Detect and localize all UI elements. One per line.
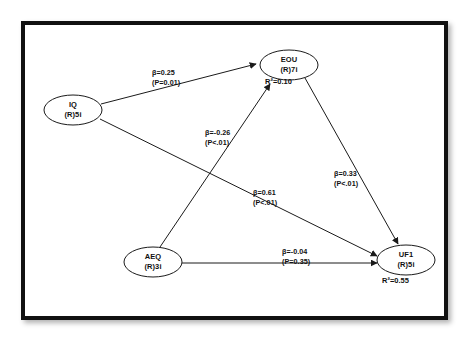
- edge-label-aeq-eou-beta: β=-0.26: [205, 128, 230, 137]
- edge-label-aeq-eou-p: (P<.01): [205, 138, 230, 148]
- diagram-canvas: [0, 0, 465, 347]
- edge-label-iq-eou: β=0.25 (P=0.01): [152, 68, 180, 87]
- node-eou-name: EOU: [281, 55, 298, 64]
- edge-label-iq-eou-p: (P=0.01): [152, 78, 180, 88]
- edge-label-aeq-uf1-beta: β=-0.04: [282, 247, 307, 256]
- node-iq-items: (R)5i: [43, 110, 103, 120]
- edge-label-iq-uf1-p: (P<.01): [253, 198, 277, 208]
- node-aeq-items: (R)3i: [123, 262, 183, 272]
- node-iq-name: IQ: [69, 100, 77, 109]
- edge-label-eou-uf1-p: (P<.01): [334, 179, 358, 189]
- r2-annotation-eou: R²=0.10: [265, 77, 292, 86]
- edge-label-aeq-eou: β=-0.26 (P<.01): [205, 128, 230, 147]
- node-label-eou: EOU (R)7i: [259, 55, 319, 74]
- edge-label-aeq-uf1-p: (P=0.35): [282, 257, 310, 267]
- edge-eou-uf1: [305, 78, 398, 244]
- edge-label-iq-eou-beta: β=0.25: [152, 68, 175, 77]
- r2-annotation-uf1: R²=0.55: [382, 276, 409, 285]
- edge-label-eou-uf1: β=0.33 (P<.01): [334, 169, 358, 188]
- edge-label-iq-uf1: β=0.61 (P<.01): [253, 188, 277, 207]
- edge-label-eou-uf1-beta: β=0.33: [334, 169, 357, 178]
- edge-label-aeq-uf1: β=-0.04 (P=0.35): [282, 247, 310, 266]
- node-uf1-items: (R)5i: [376, 260, 436, 270]
- figure-page: IQ (R)5i EOU (R)7i AEQ (R)3i UF1 (R)5i R…: [0, 0, 465, 347]
- node-label-uf1: UF1 (R)5i: [376, 250, 436, 269]
- node-label-aeq: AEQ (R)3i: [123, 252, 183, 271]
- node-aeq-name: AEQ: [145, 252, 162, 261]
- node-uf1-name: UF1: [399, 250, 413, 259]
- edge-aeq-eou: [160, 84, 270, 247]
- edge-label-iq-uf1-beta: β=0.61: [253, 188, 276, 197]
- node-eou-items: (R)7i: [259, 65, 319, 75]
- node-label-iq: IQ (R)5i: [43, 100, 103, 119]
